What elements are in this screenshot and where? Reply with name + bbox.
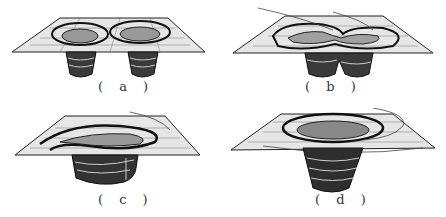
panel-b: ( b ) xyxy=(223,0,446,108)
panel-label-b: ( b ) xyxy=(305,79,362,94)
panel-d: ( d ) xyxy=(223,108,446,217)
panel-label-d: ( d ) xyxy=(315,192,372,207)
panel-label-c: ( c ) xyxy=(98,192,154,207)
panel-a: ( a ) xyxy=(0,0,223,108)
panel-label-a: ( a ) xyxy=(98,79,154,94)
panel-c: ( c ) xyxy=(0,108,223,217)
